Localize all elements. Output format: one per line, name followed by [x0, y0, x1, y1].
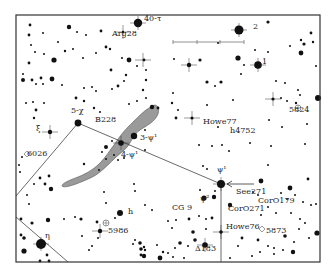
star: [299, 94, 301, 96]
star: [110, 69, 113, 72]
star: [172, 256, 174, 258]
star: [18, 164, 20, 166]
star: [299, 218, 301, 220]
star: [74, 216, 76, 218]
star: [138, 241, 142, 245]
star: [281, 126, 283, 128]
star: [98, 229, 102, 233]
star: [308, 237, 310, 239]
label-40-tau: 40-τ: [144, 15, 161, 23]
star: [237, 245, 239, 247]
star: [257, 239, 260, 242]
star: [214, 85, 216, 87]
label-5873: 5873: [266, 227, 286, 235]
star: [28, 203, 30, 205]
star: [150, 105, 154, 109]
star: [298, 228, 300, 230]
star: [97, 237, 99, 239]
star: [134, 19, 142, 27]
star: [254, 61, 262, 69]
star: [35, 109, 38, 112]
star: [20, 234, 23, 237]
star: [133, 183, 135, 185]
star: [156, 244, 158, 246]
star: [61, 84, 63, 86]
label-4-psi1: 4-ψ¹: [121, 151, 138, 159]
label-delta183: Δ183: [195, 245, 216, 253]
label-xi: ξ: [36, 125, 40, 133]
star: [221, 144, 223, 146]
label-5-chi: 5-χ: [71, 107, 84, 115]
star: [280, 192, 282, 194]
star: [259, 251, 261, 253]
label-howe76: Howe76: [226, 223, 260, 231]
star: [125, 74, 127, 76]
star: [183, 257, 185, 259]
star: [29, 24, 32, 27]
star: [268, 119, 270, 121]
star: [175, 117, 178, 120]
star: [81, 235, 83, 237]
star: [64, 50, 66, 52]
star: [270, 145, 272, 147]
star: [217, 126, 219, 128]
star: [50, 77, 55, 82]
star: [32, 101, 34, 103]
star: [75, 97, 78, 100]
star: [211, 217, 214, 220]
star: [100, 30, 103, 33]
star: [63, 218, 65, 220]
star: [145, 69, 147, 71]
label-see271: See271: [236, 188, 266, 196]
star: [101, 151, 103, 153]
star: [19, 171, 21, 173]
star: [157, 107, 160, 110]
star: [291, 250, 295, 254]
star: [259, 179, 264, 184]
star: [144, 249, 146, 251]
star: [118, 140, 124, 146]
star: [40, 77, 43, 80]
star: [172, 92, 174, 94]
star: [286, 100, 288, 102]
star: [136, 100, 138, 102]
label-b228: B228: [95, 116, 116, 124]
star: [111, 140, 113, 142]
star: [83, 87, 85, 89]
star: [42, 32, 44, 34]
star: [217, 180, 225, 188]
star: [76, 31, 78, 33]
label-arg28: Arg28: [112, 30, 137, 38]
star: [293, 241, 295, 243]
star: [35, 83, 37, 85]
star: [273, 253, 275, 255]
star: [302, 42, 305, 45]
label-psi2: ψ²: [200, 195, 209, 203]
star: [271, 97, 274, 100]
star: [111, 88, 113, 90]
star: [75, 120, 82, 127]
star: [109, 48, 111, 50]
star: [142, 254, 146, 258]
star: [240, 73, 242, 75]
label-coro271: CorO271: [228, 205, 265, 213]
star: [30, 221, 33, 224]
star: [282, 249, 284, 251]
star: [46, 254, 49, 257]
star: [211, 145, 213, 147]
star: [42, 83, 44, 85]
label-1: 1: [262, 58, 267, 66]
star: [82, 57, 84, 59]
star: [193, 238, 197, 242]
star: [26, 194, 28, 196]
star: [127, 58, 132, 63]
star: [103, 191, 105, 193]
star: [260, 214, 262, 216]
star: [91, 245, 93, 247]
star: [28, 34, 31, 37]
star: [275, 212, 277, 214]
star: [235, 26, 244, 35]
label-h: h: [128, 208, 133, 216]
star: [297, 89, 299, 91]
star: [117, 210, 123, 216]
